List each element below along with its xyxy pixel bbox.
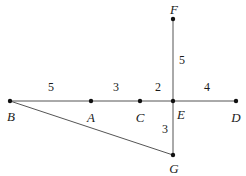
geometry-diagram: BACEDFG532453 (0, 0, 246, 176)
point-label-A: A (87, 111, 95, 124)
length-label-BA: 5 (48, 81, 54, 93)
point-label-D: D (231, 111, 240, 124)
length-label-EG: 3 (162, 123, 168, 135)
length-label-ED: 4 (204, 81, 210, 93)
length-label-AC: 3 (113, 81, 119, 93)
point-D (234, 99, 238, 103)
point-F (171, 17, 175, 21)
point-E (171, 99, 175, 103)
point-label-F: F (170, 3, 178, 16)
length-label-CE: 2 (155, 81, 161, 93)
point-label-C: C (136, 111, 145, 124)
point-C (138, 99, 142, 103)
point-A (89, 99, 93, 103)
point-G (171, 153, 175, 157)
point-label-G: G (169, 162, 178, 175)
segments-group (10, 19, 236, 155)
length-label-EF: 5 (179, 54, 185, 66)
point-B (8, 99, 12, 103)
point-label-B: B (7, 110, 15, 123)
point-label-E: E (177, 108, 185, 121)
